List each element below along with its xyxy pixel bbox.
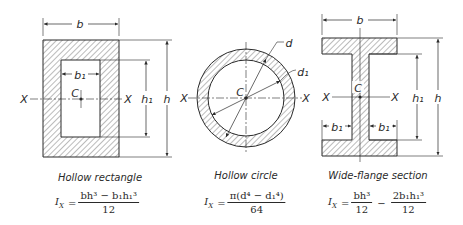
- formula-wide-flange-section: IX = bh³12 − 2b₁h₁³12: [328, 190, 428, 216]
- centroid-point: [244, 96, 248, 100]
- centroid-point: [79, 97, 82, 100]
- hollow-rectangle-section: b b₁ X X C h₁ h: [19, 17, 173, 157]
- caption-hollow-rectangle: Hollow rectangle: [58, 172, 142, 183]
- label-x-right: X: [301, 92, 310, 105]
- label-h: h: [435, 92, 442, 105]
- label-x-left: X: [19, 93, 28, 106]
- label-h: h: [164, 93, 171, 106]
- caption-hollow-circle: Hollow circle: [214, 170, 278, 181]
- label-x-right: X: [123, 93, 132, 106]
- caption-wide-flange-section: Wide-flange section: [328, 170, 427, 181]
- label-x-left: X: [179, 92, 188, 105]
- formula-hollow-circle: IX = π(d⁴ − d₁⁴)64: [204, 190, 287, 216]
- label-b: b: [77, 18, 84, 31]
- label-c: C: [71, 87, 79, 100]
- formula-hollow-rectangle: IX = bh³ − b₁h₁³12: [55, 190, 141, 216]
- hollow-circle-section: X X d d₁ C: [179, 37, 310, 154]
- label-b: b: [357, 14, 364, 27]
- centroid-point: [358, 95, 361, 98]
- label-h1: h₁: [412, 92, 423, 105]
- wide-flange-section: b X X C b₁ b₁ h₁ h: [321, 13, 444, 162]
- label-b1-left: b₁: [331, 121, 342, 134]
- label-b1: b₁: [74, 69, 85, 82]
- label-c: C: [354, 82, 362, 95]
- label-x-left: X: [321, 91, 330, 104]
- label-c: C: [236, 86, 244, 99]
- label-d1: d₁: [297, 66, 308, 79]
- label-h1: h₁: [141, 93, 152, 106]
- label-b1-right: b₁: [378, 121, 389, 134]
- label-d: d: [286, 37, 294, 50]
- label-x-right: X: [390, 91, 399, 104]
